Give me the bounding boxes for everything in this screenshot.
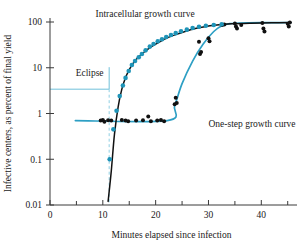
- data-point-intracellular: [155, 39, 160, 44]
- data-point-one-step: [175, 101, 179, 105]
- data-point-one-step: [262, 30, 266, 34]
- data-point-one-step: [134, 119, 138, 123]
- data-point-one-step: [126, 119, 130, 123]
- data-point-intracellular: [130, 63, 135, 68]
- data-point-one-step: [109, 119, 113, 123]
- data-point-intracellular: [173, 31, 178, 36]
- x-tick-label: 10: [98, 210, 108, 220]
- data-point-one-step: [155, 119, 159, 123]
- data-point-intracellular: [169, 33, 174, 38]
- data-point-intracellular: [190, 26, 195, 31]
- data-point-intracellular: [140, 52, 145, 57]
- y-tick-label: 0.1: [30, 155, 42, 165]
- data-point-intracellular: [151, 42, 156, 47]
- data-point-one-step: [146, 115, 150, 119]
- data-point-intracellular: [126, 69, 131, 74]
- data-point-intracellular: [185, 27, 190, 32]
- data-point-intracellular: [164, 35, 169, 40]
- data-point-one-step: [102, 120, 106, 124]
- data-point-intracellular: [197, 24, 202, 29]
- one-step-curve-label: One-step growth curve: [208, 119, 295, 129]
- eclipse-label: Eclipse: [76, 68, 104, 78]
- growth-curve-figure: 0.010.1110100 010203040 Minutes elapsed …: [0, 0, 307, 248]
- data-point-intracellular: [123, 76, 128, 81]
- x-tick-label: 40: [257, 210, 267, 220]
- data-point-one-step: [208, 39, 212, 43]
- data-point-one-step: [162, 119, 166, 123]
- y-axis-tick-labels: 0.010.1110100: [25, 17, 42, 210]
- data-point-one-step: [149, 119, 153, 123]
- x-tick-label: 0: [48, 210, 53, 220]
- intracellular-curve-label: Intracellular growth curve: [95, 9, 194, 19]
- data-point-intracellular: [204, 23, 209, 28]
- data-point-intracellular: [133, 59, 138, 64]
- data-point-one-step: [197, 40, 201, 44]
- y-tick-label: 0.01: [25, 200, 42, 210]
- intracellular-data-points: [107, 22, 224, 162]
- one-step-growth-curve-line: [75, 23, 291, 122]
- data-point-intracellular: [107, 157, 112, 162]
- data-point-one-step: [120, 118, 124, 122]
- data-point-one-step: [141, 118, 145, 122]
- data-point-intracellular: [160, 37, 165, 42]
- data-point-intracellular: [121, 83, 126, 88]
- data-point-one-step: [260, 21, 264, 25]
- data-point-one-step: [235, 27, 239, 31]
- data-point-one-step: [239, 23, 243, 27]
- data-point-one-step: [174, 96, 178, 100]
- data-point-intracellular: [111, 127, 116, 132]
- x-tick-label: 20: [151, 210, 161, 220]
- x-axis-tick-labels: 010203040: [48, 210, 267, 220]
- plot-area: [50, 21, 292, 205]
- y-tick-label: 10: [33, 63, 43, 73]
- data-point-one-step: [287, 24, 291, 28]
- data-point-intracellular: [219, 22, 224, 27]
- data-point-intracellular: [211, 23, 216, 28]
- data-point-one-step: [288, 21, 292, 25]
- x-axis-title: Minutes elapsed since infection: [111, 230, 231, 240]
- y-axis-title: Infective centers, as percent of final y…: [3, 35, 13, 193]
- x-axis-ticks: [50, 200, 288, 205]
- data-point-intracellular: [114, 108, 119, 113]
- y-tick-label: 1: [37, 109, 42, 119]
- chart-canvas: 0.010.1110100 010203040 Minutes elapsed …: [0, 0, 307, 248]
- data-point-intracellular: [143, 48, 148, 53]
- data-point-intracellular: [179, 29, 184, 34]
- data-point-one-step: [199, 50, 203, 54]
- x-tick-label: 30: [204, 210, 214, 220]
- y-tick-label: 100: [28, 17, 43, 27]
- data-point-intracellular: [117, 94, 122, 99]
